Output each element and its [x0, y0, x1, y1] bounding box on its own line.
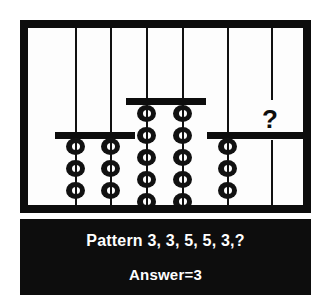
rod-segment	[227, 182, 229, 199]
rod-segment	[146, 149, 148, 166]
rod-segment	[110, 138, 112, 155]
rod-2	[110, 28, 112, 205]
bead	[101, 182, 120, 199]
rod-segment	[182, 171, 184, 188]
bead	[173, 193, 192, 205]
rod-6-lower-segment	[271, 140, 273, 205]
bead	[137, 149, 156, 166]
rod-segment	[146, 193, 148, 205]
rod-5	[227, 28, 229, 205]
bead	[66, 138, 85, 155]
bead	[173, 149, 192, 166]
rod-segment	[182, 105, 184, 122]
abacus-puzzle: ?	[0, 0, 331, 307]
bead	[173, 171, 192, 188]
bead	[137, 127, 156, 144]
bead	[218, 182, 237, 199]
rod-segment	[182, 149, 184, 166]
rod-segment	[75, 138, 77, 155]
rod-segment	[146, 105, 148, 122]
abacus-frame: ?	[20, 20, 311, 213]
rod-segment	[146, 171, 148, 188]
bead	[101, 138, 120, 155]
abacus-interior: ?	[28, 28, 303, 205]
rod-segment	[75, 160, 77, 177]
caption-panel: Pattern 3, 3, 5, 5, 3,? Answer=3	[20, 219, 311, 295]
crossbar-right-lower	[207, 132, 303, 139]
rod-segment	[182, 193, 184, 205]
bead	[218, 160, 237, 177]
rod-segment	[75, 182, 77, 199]
bead	[66, 160, 85, 177]
rod-6-upper-segment	[271, 28, 273, 100]
rod-segment	[110, 160, 112, 177]
rod-segment	[227, 138, 229, 155]
crossbar-upper-middle	[126, 98, 206, 105]
bead	[173, 127, 192, 144]
bead	[137, 193, 156, 205]
answer-label: Answer=3	[20, 266, 311, 283]
rod-segment	[182, 127, 184, 144]
bead	[66, 182, 85, 199]
crossbar-left-lower	[55, 132, 135, 139]
pattern-label: Pattern 3, 3, 5, 5, 3,?	[20, 232, 311, 250]
bead	[218, 138, 237, 155]
rod-segment	[110, 182, 112, 199]
bead	[137, 105, 156, 122]
bead	[101, 160, 120, 177]
rod-1	[75, 28, 77, 205]
bead	[137, 171, 156, 188]
bead	[173, 105, 192, 122]
rod-segment	[146, 127, 148, 144]
question-mark: ?	[262, 106, 278, 132]
rod-segment	[227, 160, 229, 177]
